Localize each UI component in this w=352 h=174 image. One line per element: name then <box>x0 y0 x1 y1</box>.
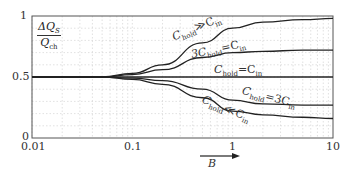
y-tick-1: 1 <box>20 9 27 22</box>
x-tick-1: 1 <box>229 140 236 153</box>
x-axis-label: B <box>208 157 216 170</box>
arrow-head-icon <box>232 153 240 159</box>
x-tick-0.1: 0.1 <box>124 140 142 153</box>
x-tick-0.01: 0.01 <box>21 140 46 153</box>
y-tick-0.5: 0.5 <box>12 70 30 83</box>
label-s3: Chold=Cin <box>214 63 262 78</box>
y-axis-label: ΔQS Qch <box>37 20 61 51</box>
x-tick-10: 10 <box>326 140 340 153</box>
